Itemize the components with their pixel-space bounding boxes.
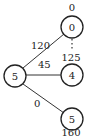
edge-root-bottom [23,84,64,113]
middle-node-label: 4 [69,70,75,81]
tree-diagram: 120 45 0 0 0 125 5 4 5 160 [0,0,85,137]
middle-node-value: 125 [61,52,80,63]
edge-weight-root-bottom: 0 [34,98,40,109]
top-node-label: 0 [69,22,75,33]
edge-weight-root-middle: 45 [38,59,51,70]
top-node-value: 0 [69,2,75,13]
root-node-label: 5 [12,71,18,82]
bottom-node-value: 160 [61,127,80,137]
bottom-node-label: 5 [69,114,75,125]
edge-weight-root-top: 120 [31,40,50,51]
